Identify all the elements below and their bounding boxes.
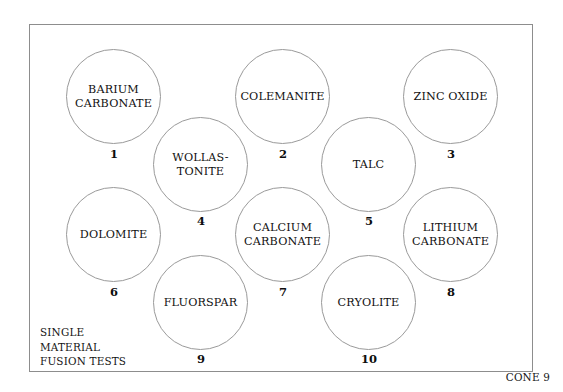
test-circle-number: 3 xyxy=(438,147,464,161)
test-circle-label: DOLOMITE xyxy=(78,228,149,242)
test-circle-label: FLUORSPAR xyxy=(162,296,240,310)
test-circle-label: LITHIUM CARBONATE xyxy=(410,221,491,248)
cone-label: CONE 9 xyxy=(506,371,550,383)
test-circle-number: 8 xyxy=(438,285,464,299)
test-circle-number: 7 xyxy=(270,285,296,299)
test-circle-8[interactable]: LITHIUM CARBONATE xyxy=(403,187,498,282)
test-circle-label: CALCIUM CARBONATE xyxy=(242,221,323,248)
test-circle-label: BARIUM CARBONATE xyxy=(73,83,154,110)
fusion-test-diagram: BARIUM CARBONATE1COLEMANITE2ZINC OXIDE3W… xyxy=(0,0,563,392)
diagram-caption: SINGLE MATERIAL FUSION TESTS xyxy=(40,325,126,369)
test-circle-number: 6 xyxy=(101,285,127,299)
test-circle-label: CRYOLITE xyxy=(336,296,402,310)
test-circle-label: TALC xyxy=(351,158,387,172)
test-circle-label: WOLLAS- TONITE xyxy=(170,151,231,178)
test-circle-7[interactable]: CALCIUM CARBONATE xyxy=(235,187,330,282)
test-circle-number: 4 xyxy=(188,214,214,228)
test-circle-9[interactable]: FLUORSPAR xyxy=(153,255,248,350)
test-circle-label: ZINC OXIDE xyxy=(411,90,489,104)
test-circle-number: 1 xyxy=(101,147,127,161)
test-circle-10[interactable]: CRYOLITE xyxy=(321,255,416,350)
test-circle-5[interactable]: TALC xyxy=(321,117,416,212)
test-circle-2[interactable]: COLEMANITE xyxy=(235,49,330,144)
test-circle-6[interactable]: DOLOMITE xyxy=(66,187,161,282)
test-circle-4[interactable]: WOLLAS- TONITE xyxy=(153,117,248,212)
test-circle-number: 10 xyxy=(356,352,382,366)
test-circle-number: 2 xyxy=(270,147,296,161)
test-circle-number: 5 xyxy=(356,214,382,228)
test-circle-1[interactable]: BARIUM CARBONATE xyxy=(66,49,161,144)
test-circle-label: COLEMANITE xyxy=(238,90,326,104)
test-circle-3[interactable]: ZINC OXIDE xyxy=(403,49,498,144)
test-circle-number: 9 xyxy=(188,352,214,366)
